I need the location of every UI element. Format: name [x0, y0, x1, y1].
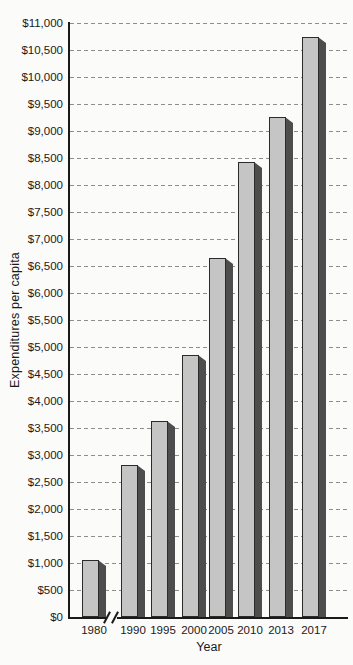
x-axis-line-right-segment [117, 617, 348, 619]
bar-shadow-side [167, 421, 175, 617]
y-tick-label: $10,000 [0, 71, 63, 83]
x-axis-title: Year [196, 640, 221, 654]
bar-front-face [238, 162, 255, 617]
bar-front-face [82, 560, 99, 617]
y-tick-label: $5,500 [0, 314, 63, 326]
y-tick-label: $7,500 [0, 206, 63, 218]
bar-1980 [82, 560, 106, 617]
y-tick-label: $10,500 [0, 44, 63, 56]
y-axis-line [68, 22, 70, 619]
y-tick-label: $4,000 [0, 395, 63, 407]
x-tick-label: 1980 [72, 624, 116, 636]
y-tick-label: $9,500 [0, 98, 63, 110]
y-tick-label: $1,500 [0, 530, 63, 542]
bar-shadow-side [254, 162, 262, 617]
bar-shadow-side [318, 37, 326, 617]
bar-chart: Expenditures per capita $0$500$1,000$1,5… [0, 0, 353, 665]
bar-front-face [269, 117, 286, 617]
y-tick-label: $7,000 [0, 233, 63, 245]
y-tick-label: $4,500 [0, 368, 63, 380]
bar-2000 [182, 355, 206, 617]
bar-shadow-side [198, 355, 206, 617]
bar-front-face [121, 465, 138, 617]
bar-shadow-side [285, 117, 293, 617]
bar-1995 [151, 421, 175, 617]
x-tick-label: 2017 [292, 624, 336, 636]
bar-front-face [182, 355, 199, 617]
y-tick-label: $2,000 [0, 503, 63, 515]
bar-1990 [121, 465, 145, 617]
bar-2017 [302, 37, 326, 617]
y-tick-label: $6,000 [0, 287, 63, 299]
y-tick-label: $6,500 [0, 260, 63, 272]
bar-shadow-side [98, 560, 106, 617]
bar-2013 [269, 117, 293, 617]
y-tick-label: $1,000 [0, 557, 63, 569]
x-axis-line-left-segment [68, 617, 106, 619]
y-tick-label: $3,000 [0, 449, 63, 461]
bar-2005 [209, 258, 233, 617]
gridline [70, 23, 348, 24]
bar-2010 [238, 162, 262, 617]
bar-front-face [209, 258, 226, 617]
y-tick-label: $2,500 [0, 476, 63, 488]
y-tick-label: $500 [0, 584, 63, 596]
bar-shadow-side [225, 258, 233, 617]
bar-front-face [302, 37, 319, 617]
y-tick-label: $8,000 [0, 179, 63, 191]
y-tick-label: $8,500 [0, 152, 63, 164]
bar-front-face [151, 421, 168, 617]
y-tick-label: $9,000 [0, 125, 63, 137]
bar-shadow-side [137, 465, 145, 617]
y-tick-label: $5,000 [0, 341, 63, 353]
y-tick-label: $11,000 [0, 17, 63, 29]
y-tick-label: $0 [0, 611, 63, 623]
y-tick-label: $3,500 [0, 422, 63, 434]
